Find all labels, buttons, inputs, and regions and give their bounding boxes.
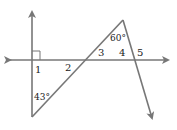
angle-3-label: 3 <box>98 47 104 58</box>
angle-2-label: 2 <box>65 62 71 73</box>
geometry-diagram: 1 2 3 4 5 60° 43° <box>0 0 177 130</box>
angle-apex-label: 60° <box>110 33 126 43</box>
right-angle-mark <box>32 51 40 60</box>
angle-bottom-label: 43° <box>34 92 50 102</box>
angle-1-label: 1 <box>35 64 41 75</box>
angle-4-label: 4 <box>119 47 125 58</box>
angle-5-label: 5 <box>137 47 143 58</box>
ray-line <box>123 20 152 118</box>
